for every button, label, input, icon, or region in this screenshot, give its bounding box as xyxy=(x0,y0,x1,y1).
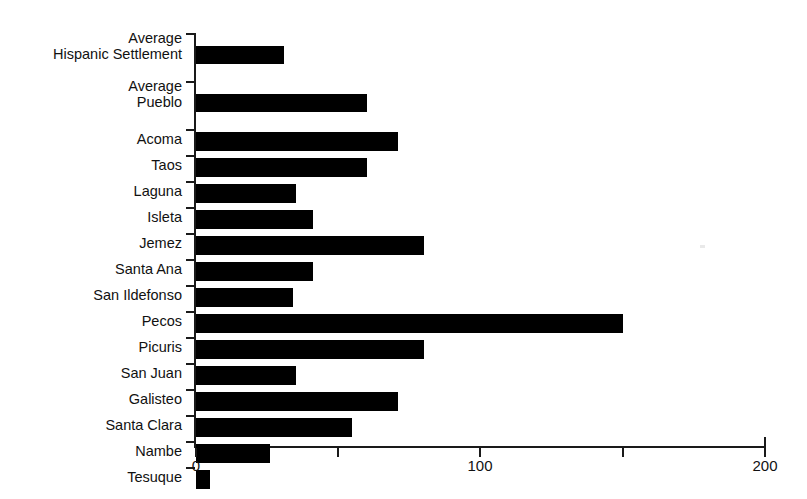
y-tick xyxy=(186,155,195,157)
category-label: Acoma xyxy=(0,131,186,147)
table-row: Acoma xyxy=(0,129,807,155)
bar xyxy=(196,132,398,151)
y-tick xyxy=(186,233,195,235)
table-row: San Juan xyxy=(0,363,807,389)
x-tick-0 xyxy=(195,448,197,457)
bar xyxy=(196,392,398,411)
table-row: Laguna xyxy=(0,181,807,207)
category-label: Pecos xyxy=(0,313,186,329)
x-tick-label-100: 100 xyxy=(467,457,492,474)
table-row: Galisteo xyxy=(0,389,807,415)
category-label: Average Pueblo xyxy=(0,78,186,110)
table-row: Jemez xyxy=(0,233,807,259)
y-tick xyxy=(186,129,195,131)
category-label: Laguna xyxy=(0,183,186,199)
x-tick-100 xyxy=(479,448,481,457)
table-row: Picuris xyxy=(0,337,807,363)
bar xyxy=(196,158,367,177)
table-row: Average Pueblo xyxy=(0,81,807,129)
table-row: Isleta xyxy=(0,207,807,233)
bar xyxy=(196,366,296,385)
y-tick xyxy=(186,441,195,443)
table-row: Santa Clara xyxy=(0,415,807,441)
category-label: Tesuque xyxy=(0,469,186,485)
bar xyxy=(196,94,367,112)
bar xyxy=(196,314,623,333)
x-tick-50 xyxy=(337,448,339,457)
bar xyxy=(196,236,424,255)
bar xyxy=(196,288,293,307)
x-tick-150 xyxy=(622,448,624,457)
category-label: Jemez xyxy=(0,235,186,251)
table-row: San Ildefonso xyxy=(0,285,807,311)
category-label: Isleta xyxy=(0,209,186,225)
y-tick xyxy=(186,337,195,339)
table-row: Pecos xyxy=(0,311,807,337)
y-tick xyxy=(186,311,195,313)
category-label: Taos xyxy=(0,157,186,173)
y-tick xyxy=(186,363,195,365)
category-label: Santa Clara xyxy=(0,417,186,433)
y-tick xyxy=(186,81,195,83)
table-row: Nambe xyxy=(0,441,807,467)
table-row: Tesuque xyxy=(0,467,807,493)
bar xyxy=(196,340,424,359)
chart-page: Average Hispanic Settlement Average Pueb… xyxy=(0,0,807,499)
y-tick xyxy=(186,259,195,261)
bar xyxy=(196,444,270,463)
bar-rows: Average Hispanic Settlement Average Pueb… xyxy=(0,33,807,493)
category-label: San Juan xyxy=(0,365,186,381)
bar xyxy=(196,46,284,64)
x-tick-label-200: 200 xyxy=(752,457,777,474)
y-tick xyxy=(186,181,195,183)
y-tick xyxy=(186,207,195,209)
bar xyxy=(196,210,313,229)
y-tick xyxy=(186,415,195,417)
category-label: Picuris xyxy=(0,339,186,355)
x-tick-label-0: 0 xyxy=(192,457,200,474)
category-label: Galisteo xyxy=(0,391,186,407)
category-label: San Ildefonso xyxy=(0,287,186,303)
y-tick xyxy=(186,389,195,391)
table-row: Average Hispanic Settlement xyxy=(0,33,807,81)
bar xyxy=(196,184,296,203)
category-label: Nambe xyxy=(0,443,186,459)
table-row: Santa Ana xyxy=(0,259,807,285)
category-label: Santa Ana xyxy=(0,261,186,277)
x-tick-200 xyxy=(764,448,766,457)
y-tick xyxy=(186,285,195,287)
bar xyxy=(196,418,352,437)
bar xyxy=(196,262,313,281)
y-tick xyxy=(186,33,195,35)
table-row: Taos xyxy=(0,155,807,181)
bar-chart: Average Hispanic Settlement Average Pueb… xyxy=(0,0,807,499)
category-label: Average Hispanic Settlement xyxy=(0,30,186,62)
